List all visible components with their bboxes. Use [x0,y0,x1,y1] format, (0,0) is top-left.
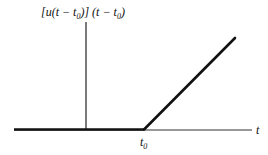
label-subscript: 0 [117,12,121,21]
label-part: )] (t − t [80,5,116,19]
label-part: ) [121,5,125,19]
x-axis-label: t [256,124,259,136]
t0-subscript: 0 [143,142,147,151]
t0-tick-label: t0 [140,136,147,150]
label-part: [u(t − t [41,5,76,19]
label-subscript: 0 [76,12,80,21]
ramp-diagram [0,0,268,155]
signal-ramp-segment [144,38,235,130]
function-label: [u(t − t0)] (t − t0) [41,6,125,20]
